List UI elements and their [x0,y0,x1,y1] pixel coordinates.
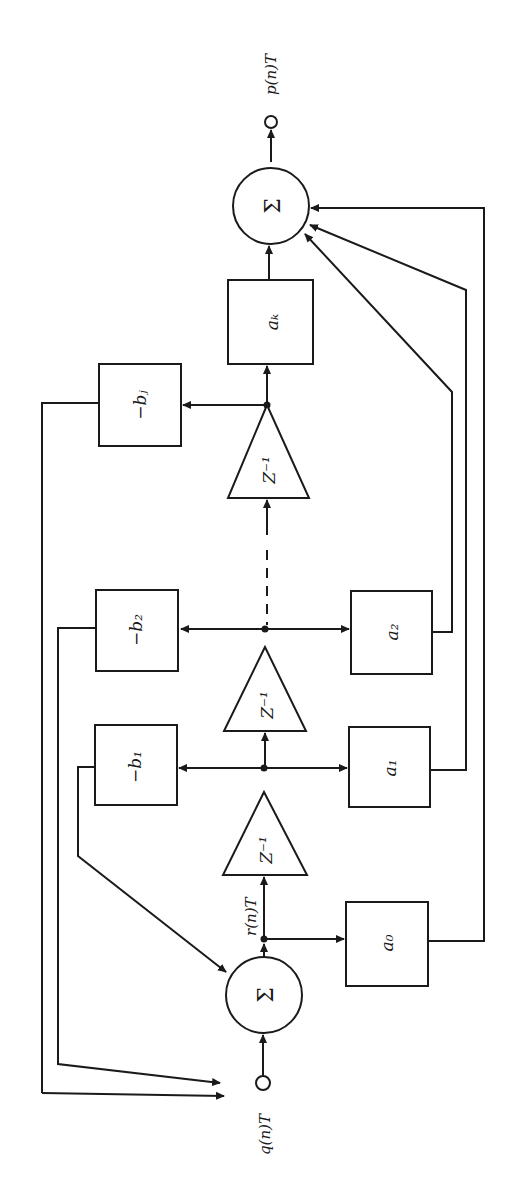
output-sum-junction: Σ [233,168,309,244]
svg-text:aₖ: aₖ [262,314,282,330]
box-minus-b2: −b₂ [58,590,265,1083]
svg-text:Z⁻¹: Z⁻¹ [256,836,276,865]
svg-text:−bⱼ: −bⱼ [130,390,150,420]
filter-diagram: p(n)T Σ aₖ −bⱼ Z⁻¹ −b₂ a₂ [0,0,523,1183]
svg-text:−b₂: −b₂ [126,614,146,646]
sum-symbol: Σ [260,198,285,214]
delay-3: Z⁻¹ [228,405,309,535]
svg-text:Z⁻¹: Z⁻¹ [257,691,277,720]
svg-text:a₀: a₀ [377,934,397,951]
input-label: q(n)T [256,1113,274,1155]
output-label: p(n)T [262,53,280,95]
svg-text:−b₁: −b₁ [125,751,145,783]
internal-signal-label: r(n)T [242,896,260,936]
svg-text:Z⁻¹: Z⁻¹ [259,456,279,485]
svg-text:a₂: a₂ [382,623,402,640]
svg-text:a₁: a₁ [380,760,400,777]
svg-text:Σ: Σ [253,987,278,1003]
input-terminal: q(n)T [256,1035,274,1155]
box-aK: aₖ [228,246,313,364]
output-terminal: p(n)T [262,53,280,162]
delay-1: Z⁻¹ [223,792,307,938]
delay-2: Z⁻¹ [224,647,306,767]
